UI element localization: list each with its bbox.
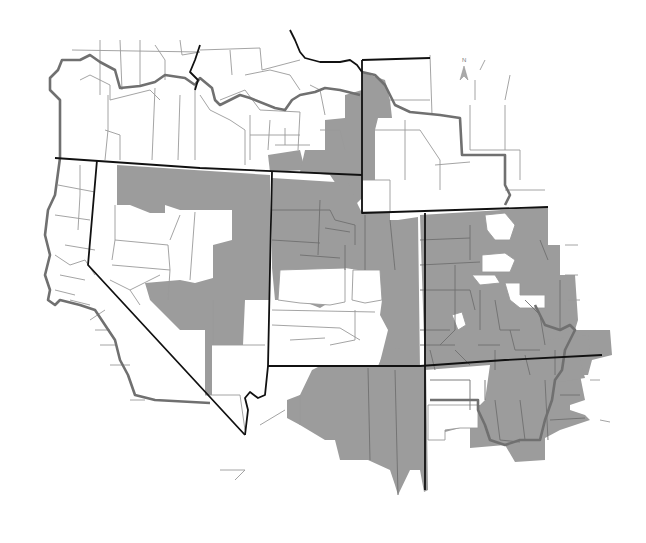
unshaded-county (362, 180, 390, 212)
shaded-county (287, 348, 428, 495)
north-arrow-icon: N (460, 57, 468, 80)
map-canvas: N (0, 0, 646, 543)
shaded-county (268, 150, 305, 172)
svg-text:N: N (462, 57, 466, 63)
county-map: N (0, 0, 646, 543)
unshaded-county (278, 268, 345, 305)
unshaded-county (352, 270, 382, 303)
shaded-county (117, 165, 270, 395)
